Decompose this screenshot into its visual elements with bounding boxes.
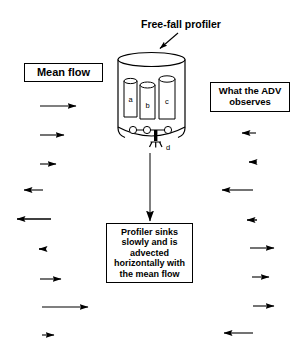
adv-observes-label-box: What the ADV observes — [210, 82, 290, 112]
cylinder-label-a: a — [129, 95, 133, 104]
float-circle-left — [129, 126, 136, 133]
figure-canvas: Free-fall profiler Mean flow What the AD… — [0, 0, 297, 352]
profiler-sinks-label-box: Profiler sinks slowly and is advected ho… — [106, 223, 193, 283]
probe-label-d: d — [166, 143, 170, 152]
profiler-top-ellipse — [118, 53, 185, 67]
diagram-vector-layer — [0, 0, 297, 352]
adv-observed-arrow-group — [222, 133, 274, 333]
float-circle-middle — [143, 126, 150, 133]
mean-flow-arrow-group — [17, 106, 88, 335]
float-circle-right — [164, 126, 171, 133]
freefall-profiler-label: Free-fall profiler — [141, 18, 221, 30]
freefall-pointer-arrow — [160, 33, 178, 49]
mean-flow-label-box: Mean flow — [24, 63, 103, 82]
cylinder-label-b: b — [146, 101, 150, 110]
cylinder-label-c: c — [165, 97, 169, 106]
profiler-float-assembly — [129, 126, 171, 133]
adv-probe-d — [150, 130, 163, 148]
